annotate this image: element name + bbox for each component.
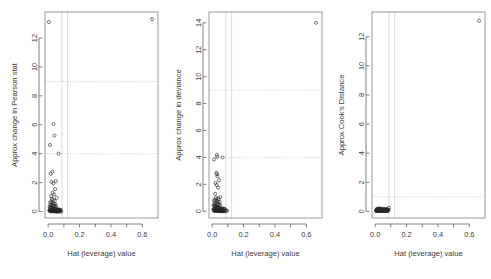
y-axis-label: Approx change in deviance xyxy=(174,69,183,161)
data-point xyxy=(212,158,215,161)
data-point xyxy=(214,192,217,195)
x-tick-label: 0.6 xyxy=(301,230,311,239)
panel-deviance: 024681012140.00.20.40.6Hat (leverage) va… xyxy=(164,0,328,279)
data-point xyxy=(216,155,219,158)
x-axis: 0.00.20.40.6 xyxy=(43,224,147,239)
y-tick-label: 8 xyxy=(30,94,39,98)
y-tick-label: 0 xyxy=(30,209,39,213)
panel-pearson-stat: 0246810120.00.20.40.6Hat (leverage) valu… xyxy=(0,0,164,279)
x-tick-label: 0.6 xyxy=(137,230,147,239)
data-point xyxy=(314,21,317,24)
x-tick-label: 0.4 xyxy=(270,230,280,239)
data-point xyxy=(53,188,56,191)
y-tick-label: 12 xyxy=(30,34,39,42)
y-axis-label: Approx change in Pearson stat xyxy=(10,62,19,167)
data-point xyxy=(216,175,219,178)
x-tick-label: 0.2 xyxy=(401,230,411,239)
data-points xyxy=(212,21,318,213)
x-tick-label: 0.2 xyxy=(238,230,248,239)
y-tick-label: 6 xyxy=(357,122,366,126)
y-axis: 02468101214 xyxy=(194,19,206,214)
data-point xyxy=(217,179,220,182)
x-tick-label: 0.0 xyxy=(207,230,217,239)
x-axis-label: Hat (leverage) value xyxy=(394,249,462,258)
plot-area-0: 0246810120.00.20.40.6Hat (leverage) valu… xyxy=(0,0,164,279)
data-point xyxy=(53,134,56,137)
y-tick-label: 6 xyxy=(194,128,203,132)
data-points xyxy=(374,19,480,212)
x-axis-label: Hat (leverage) value xyxy=(67,249,135,258)
x-axis-label: Hat (leverage) value xyxy=(231,249,299,258)
x-axis: 0.00.20.40.6 xyxy=(207,224,311,239)
y-tick-label: 4 xyxy=(30,152,39,156)
y-tick-label: 0 xyxy=(357,209,366,213)
y-axis: 024681012 xyxy=(357,33,369,214)
x-tick-label: 0.6 xyxy=(464,230,474,239)
data-points xyxy=(47,18,153,213)
plot-area-2: 0246810120.00.20.40.6Hat (leverage) valu… xyxy=(327,0,491,279)
data-point xyxy=(217,186,220,189)
data-point xyxy=(47,21,50,24)
plot-area-1: 024681012140.00.20.40.6Hat (leverage) va… xyxy=(164,0,328,279)
y-tick-label: 10 xyxy=(194,73,203,81)
y-tick-label: 6 xyxy=(30,123,39,127)
data-point xyxy=(55,196,58,199)
x-axis: 0.00.20.40.6 xyxy=(370,224,474,239)
y-tick-label: 0 xyxy=(194,209,203,213)
x-tick-label: 0.0 xyxy=(43,230,53,239)
y-tick-label: 4 xyxy=(194,155,203,159)
y-tick-label: 10 xyxy=(357,62,366,70)
x-tick-label: 0.0 xyxy=(370,230,380,239)
y-tick-label: 8 xyxy=(357,93,366,97)
data-point xyxy=(49,172,52,175)
y-tick-label: 14 xyxy=(194,19,203,27)
y-tick-label: 4 xyxy=(357,151,366,155)
y-tick-label: 10 xyxy=(30,63,39,71)
y-tick-label: 2 xyxy=(194,182,203,186)
data-point xyxy=(48,143,51,146)
y-tick-label: 2 xyxy=(30,181,39,185)
y-axis-label: Approx Cook's Distance xyxy=(337,75,346,156)
y-tick-label: 2 xyxy=(357,180,366,184)
x-tick-label: 0.2 xyxy=(74,230,84,239)
y-tick-label: 12 xyxy=(357,33,366,41)
panel-cooks-distance: 0246810120.00.20.40.6Hat (leverage) valu… xyxy=(327,0,491,279)
data-point xyxy=(52,122,55,125)
y-tick-label: 12 xyxy=(194,46,203,54)
y-axis: 024681012 xyxy=(30,34,42,214)
y-tick-label: 8 xyxy=(194,101,203,105)
x-tick-label: 0.4 xyxy=(106,230,116,239)
diagnostic-figure: 0246810120.00.20.40.6Hat (leverage) valu… xyxy=(0,0,491,279)
data-point xyxy=(150,18,153,21)
x-tick-label: 0.4 xyxy=(433,230,443,239)
data-point xyxy=(477,19,480,22)
